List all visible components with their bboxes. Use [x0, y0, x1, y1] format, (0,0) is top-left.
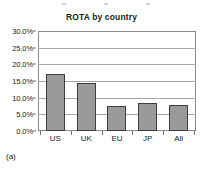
- x-axis-tick-label: US: [40, 134, 71, 143]
- y-axis-tick-label: 15.0%: [12, 77, 33, 86]
- bar-slot: [71, 31, 102, 131]
- y-axis-tick: [33, 114, 36, 115]
- bar-slot: [40, 31, 71, 131]
- y-axis-tick: [33, 97, 36, 98]
- x-axis-labels: USUKEUJPAll: [38, 134, 196, 143]
- panel-caption: (a): [6, 152, 16, 161]
- x-axis-tick-label: All: [163, 134, 194, 143]
- bar-slot: [132, 31, 163, 131]
- y-axis-tick: [33, 47, 36, 48]
- y-axis-tick: [33, 81, 36, 82]
- bar-uk: [77, 83, 96, 131]
- x-axis-tick-label: JP: [132, 134, 163, 143]
- plot-area-wrapper: [38, 31, 196, 131]
- bar-series: [38, 31, 196, 131]
- x-axis-tick-label: UK: [71, 134, 102, 143]
- bar-slot: [163, 31, 194, 131]
- x-axis-tick-label: EU: [102, 134, 133, 143]
- bar-us: [46, 74, 65, 131]
- bar-slot: [102, 31, 133, 131]
- y-axis-tick-label: 0.0%: [16, 127, 33, 136]
- bar-eu: [107, 106, 126, 131]
- scan-artifacts: [0, 0, 203, 9]
- y-axis-tick-label: 10.0%: [12, 93, 33, 102]
- bar-all: [169, 105, 188, 131]
- y-axis-tick-label: 20.0%: [12, 60, 33, 69]
- y-axis-tick: [33, 64, 36, 65]
- y-axis-tick-label: 25.0%: [12, 43, 33, 52]
- y-axis-tick-label: 30.0%: [12, 27, 33, 36]
- chart-figure: ROTA by country 30.0%25.0%20.0%15.0%10.0…: [0, 0, 203, 173]
- chart-title: ROTA by country: [0, 12, 203, 22]
- y-axis-tick: [33, 31, 36, 32]
- bar-jp: [138, 103, 157, 131]
- y-axis: 30.0%25.0%20.0%15.0%10.0%5.0%0.0%: [0, 31, 36, 131]
- y-axis-tick-label: 5.0%: [16, 110, 33, 119]
- y-axis-tick: [33, 131, 36, 132]
